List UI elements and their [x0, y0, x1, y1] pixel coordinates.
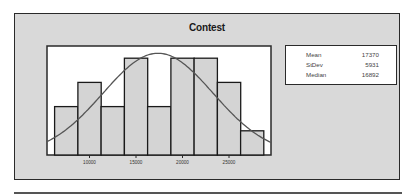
histogram-bar — [55, 107, 78, 155]
histogram-bar — [241, 131, 264, 155]
x-tick-label: 25000 — [223, 160, 236, 165]
stat-row-median: Median 16892 — [306, 71, 379, 81]
stat-label: Median — [306, 71, 326, 78]
histogram-bar — [124, 58, 147, 155]
chart-panel: Contest 10000150002000025000 Mean 17370 … — [14, 13, 400, 180]
histogram-bar — [194, 58, 217, 155]
stat-value: 17370 — [362, 51, 379, 58]
stat-value: 5931 — [365, 61, 379, 68]
stat-value: 16892 — [362, 71, 379, 78]
x-tick-label: 15000 — [130, 160, 143, 165]
x-tick-label: 10000 — [83, 160, 96, 165]
x-tick-label: 20000 — [176, 160, 189, 165]
histogram-bar — [148, 107, 171, 155]
stat-row-stdev: StDev 5931 — [306, 61, 379, 71]
statistics-legend: Mean 17370 StDev 5931 Median 16892 — [285, 45, 397, 85]
x-axis-ticks: 10000150002000025000 — [83, 155, 236, 165]
histogram-bar — [78, 82, 101, 155]
bottom-divider — [14, 192, 402, 194]
stat-label: Mean — [306, 51, 321, 58]
stat-label: StDev — [306, 61, 323, 68]
histogram-plot: 10000150002000025000 — [15, 14, 401, 181]
stat-row-mean: Mean 17370 — [306, 51, 379, 61]
histogram-bar — [101, 107, 124, 155]
histogram-bar — [171, 58, 194, 155]
